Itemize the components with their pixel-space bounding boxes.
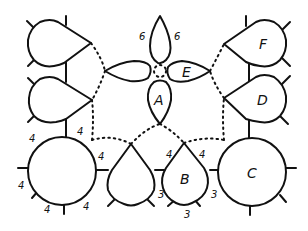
number-label: 4 (98, 151, 104, 162)
node-e-label: E (182, 64, 191, 80)
number-label: 4 (199, 149, 205, 160)
number-label: 3 (184, 209, 190, 220)
teardrop-bottom-middle[interactable] (108, 144, 155, 206)
petal-top-number-right: 6 (174, 31, 180, 42)
node-f-label: F (259, 36, 268, 52)
diagram-canvas: B C F D 6 6 E (0, 0, 308, 231)
node-a-label: A (153, 92, 164, 108)
number-label: 3 (211, 189, 217, 200)
petal-top-number-left: 6 (139, 31, 145, 42)
node-d-label: D (257, 92, 268, 108)
center-flower: 6 6 E A (105, 16, 210, 124)
teardrop-top-left[interactable] (27, 16, 91, 66)
node-a[interactable]: A (148, 81, 171, 125)
number-label: 4 (18, 180, 24, 191)
node-d[interactable]: D (224, 75, 290, 124)
node-f[interactable]: F (224, 16, 290, 66)
petal-left[interactable] (105, 61, 151, 81)
number-label: 4 (77, 126, 83, 137)
number-label: 4 (166, 149, 172, 160)
number-label: 4 (29, 133, 35, 144)
petal-top[interactable]: 6 6 (139, 16, 180, 63)
teardrop-mid-left[interactable] (28, 77, 92, 122)
number-label: 3 (158, 189, 164, 200)
node-b-label: B (180, 171, 190, 187)
node-e[interactable]: E (167, 61, 210, 82)
node-c[interactable]: C (218, 138, 296, 215)
node-c-label: C (247, 165, 257, 181)
number-label: 4 (44, 204, 50, 215)
number-label: 4 (83, 201, 89, 212)
